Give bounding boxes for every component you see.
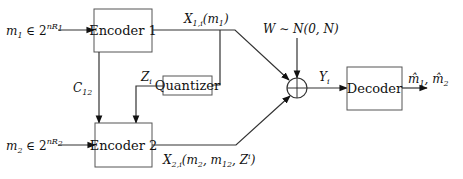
zi-label: Zi: [140, 70, 152, 86]
svg-text:m̂1, m̂2: m̂1, m̂2: [408, 72, 449, 88]
quantizer-label: Quantizer: [155, 78, 221, 93]
x1-label: X1,i(m1): [183, 12, 229, 28]
svg-text:m2 ∈ 2nR2: m2 ∈ 2nR2: [6, 137, 63, 155]
output-label: m̂1, m̂2: [408, 72, 449, 88]
yi-label: Yi: [319, 70, 330, 86]
x2-signal-line: [152, 96, 290, 145]
svg-text:X1,i(m1): X1,i(m1): [183, 12, 229, 28]
block-diagram: m1 ∈ 2nR1 Encoder 1 X1,i(m1) Quantizer Z…: [0, 0, 463, 179]
m2-input-label: m2 ∈ 2nR2: [6, 137, 63, 155]
noise-label: W ∼ N(0, N): [263, 22, 339, 36]
svg-text:Zi: Zi: [140, 70, 152, 86]
encoder1-block: Encoder 1: [89, 9, 157, 52]
svg-text:X2,i(m2, m12, Zi): X2,i(m2, m12, Zi): [162, 152, 256, 169]
encoder1-label: Encoder 1: [89, 23, 157, 38]
quantizer-feed-line: [212, 30, 220, 85]
encoder2-block: Encoder 2: [90, 123, 158, 167]
quantizer-block: Quantizer: [155, 76, 221, 95]
svg-text:m1 ∈ 2nR1: m1 ∈ 2nR1: [6, 22, 63, 40]
svg-text:W ∼ N(0, N): W ∼ N(0, N): [263, 22, 339, 36]
decoder-block: Decoder: [347, 67, 403, 110]
m1-input-label: m1 ∈ 2nR1: [6, 22, 63, 40]
decoder-label: Decoder: [347, 81, 403, 96]
c12-label: C12: [73, 81, 92, 97]
svg-text:C12: C12: [73, 81, 92, 97]
encoder2-label: Encoder 2: [90, 138, 158, 153]
x2-label: X2,i(m2, m12, Zi): [162, 152, 256, 169]
svg-text:Yi: Yi: [319, 70, 330, 86]
summer-node: [287, 78, 307, 98]
